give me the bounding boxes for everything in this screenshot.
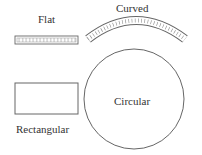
circular-label: Circular xyxy=(114,96,150,107)
shape-diagram: Flat Curved Rectangular Circular xyxy=(0,0,202,155)
rectangle-shape xyxy=(15,83,78,114)
curved-strip-shape xyxy=(88,21,185,40)
rectangular-label: Rectangular xyxy=(16,124,69,135)
flat-label: Flat xyxy=(38,14,55,25)
curved-label: Curved xyxy=(116,3,148,14)
flat-strip-shape xyxy=(15,36,78,44)
